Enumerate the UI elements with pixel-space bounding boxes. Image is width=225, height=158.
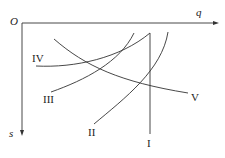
s-axis-arrow-icon: [20, 130, 24, 136]
curve-I-label: I: [147, 137, 151, 149]
diagram-canvas: O q s I II III IV V: [0, 0, 225, 158]
curve-V: [54, 39, 188, 93]
curve-II-label: II: [88, 126, 96, 138]
origin-label: O: [10, 15, 18, 27]
curve-IV-label: IV: [32, 52, 44, 64]
s-axis-label: s: [9, 127, 13, 139]
q-axis-label: q: [196, 6, 202, 18]
curve-IV: [36, 33, 150, 66]
curve-III-label: III: [43, 93, 54, 105]
curve-V-label: V: [191, 91, 199, 103]
curve-III: [51, 33, 134, 92]
q-axis-arrow-icon: [213, 21, 219, 25]
